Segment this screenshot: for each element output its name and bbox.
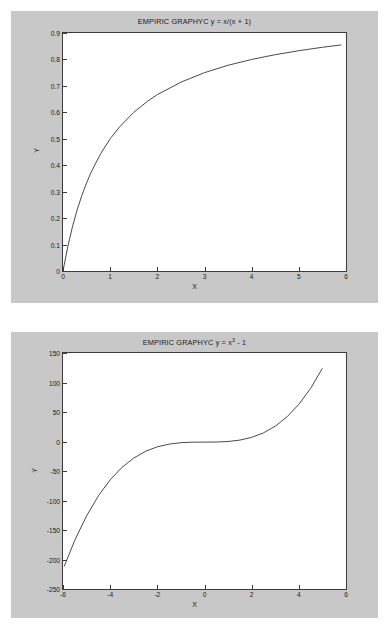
chart-title-2-tail: - 1 <box>235 338 246 347</box>
y-tick-mark <box>63 165 67 166</box>
y-tick-mark <box>63 412 67 413</box>
y-tick-label: 0.3 <box>51 188 60 195</box>
x-tick-label: 0 <box>61 273 65 280</box>
x-tick-label: -2 <box>154 591 160 598</box>
y-tick-label: -50 <box>50 468 60 475</box>
x-tick-mark <box>252 267 253 271</box>
curve-plot-1 <box>63 33 346 271</box>
y-tick-mark <box>63 33 67 34</box>
x-tick-mark <box>299 267 300 271</box>
y-tick-label: -100 <box>47 497 60 504</box>
x-axis-label-2: X <box>11 601 378 608</box>
y-tick-mark <box>63 245 67 246</box>
chart-title-2-base: EMPIRIC GRAPHYC y = x <box>143 338 232 347</box>
y-tick-mark <box>63 271 67 272</box>
x-tick-label: 0 <box>203 591 207 598</box>
x-tick-label: 3 <box>203 273 207 280</box>
x-tick-mark <box>205 267 206 271</box>
y-tick-mark <box>63 192 67 193</box>
figure-panel-2: EMPIRIC GRAPHYC y = x3 - 1 Y X -250-200-… <box>11 332 378 618</box>
y-tick-label: 150 <box>49 350 60 357</box>
y-tick-label: 0.4 <box>51 162 60 169</box>
x-tick-mark <box>63 267 64 271</box>
y-tick-mark <box>63 218 67 219</box>
y-tick-label: 50 <box>53 409 60 416</box>
x-tick-mark <box>157 585 158 589</box>
x-tick-mark <box>63 585 64 589</box>
y-tick-mark <box>63 59 67 60</box>
y-tick-mark <box>63 442 67 443</box>
y-tick-label: 0 <box>56 268 60 275</box>
x-tick-label: 5 <box>297 273 301 280</box>
y-tick-mark <box>63 530 67 531</box>
x-tick-mark <box>252 585 253 589</box>
y-tick-mark <box>63 471 67 472</box>
x-tick-mark <box>299 585 300 589</box>
x-tick-label: 2 <box>250 591 254 598</box>
curve-plot-2 <box>63 353 346 589</box>
chart-title-2: EMPIRIC GRAPHYC y = x3 - 1 <box>11 337 378 347</box>
y-tick-label: -150 <box>47 527 60 534</box>
x-tick-mark <box>110 267 111 271</box>
y-tick-mark <box>63 383 67 384</box>
x-tick-label: 4 <box>250 273 254 280</box>
y-tick-label: 0.5 <box>51 135 60 142</box>
x-tick-label: 6 <box>344 591 348 598</box>
x-tick-label: 6 <box>344 273 348 280</box>
y-tick-mark <box>63 353 67 354</box>
x-tick-label: 4 <box>297 591 301 598</box>
x-tick-mark <box>346 585 347 589</box>
figure-panel-1: EMPIRIC GRAPHYC y = x/(x + 1) Y X 00.10.… <box>11 11 378 303</box>
y-tick-label: 0.9 <box>51 30 60 37</box>
y-tick-label: -200 <box>47 556 60 563</box>
y-axis-label-1: Y <box>33 144 40 158</box>
y-tick-mark <box>63 112 67 113</box>
y-tick-mark <box>63 86 67 87</box>
x-tick-mark <box>205 585 206 589</box>
y-tick-label: 0.8 <box>51 56 60 63</box>
x-tick-label: 1 <box>108 273 112 280</box>
y-tick-mark <box>63 560 67 561</box>
y-tick-label: 0.2 <box>51 215 60 222</box>
y-tick-label: 0.1 <box>51 241 60 248</box>
x-tick-mark <box>110 585 111 589</box>
x-tick-label: -6 <box>60 591 66 598</box>
y-tick-label: 100 <box>49 379 60 386</box>
y-axis-label-2: Y <box>31 464 38 478</box>
plot-area-1: 00.10.20.30.40.50.60.70.80.90123456 <box>62 32 347 272</box>
y-tick-mark <box>63 589 67 590</box>
y-tick-label: 0.7 <box>51 82 60 89</box>
plot-area-2: -250-200-150-100-50050100150-6-4-20246 <box>62 352 347 590</box>
chart-title-1: EMPIRIC GRAPHYC y = x/(x + 1) <box>11 17 378 26</box>
x-tick-mark <box>157 267 158 271</box>
y-tick-label: 0 <box>56 438 60 445</box>
y-tick-mark <box>63 501 67 502</box>
y-tick-label: 0.6 <box>51 109 60 116</box>
x-tick-mark <box>346 267 347 271</box>
x-tick-label: -4 <box>107 591 113 598</box>
y-tick-label: -250 <box>47 586 60 593</box>
x-tick-label: 2 <box>155 273 159 280</box>
x-axis-label-1: X <box>11 283 378 290</box>
y-tick-mark <box>63 139 67 140</box>
